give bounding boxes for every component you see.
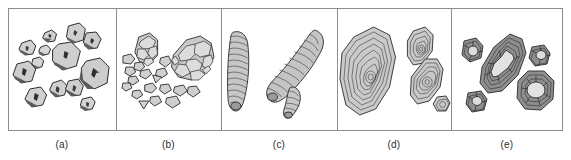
caption-e: (e) — [451, 133, 563, 160]
panel-e-drawing — [452, 9, 562, 130]
panel-a — [9, 9, 117, 130]
caption-d: (d) — [337, 133, 451, 160]
panel-b — [117, 9, 222, 130]
caption-b: (b) — [116, 133, 221, 160]
panel-c — [222, 9, 338, 130]
caption-c: (c) — [221, 133, 337, 160]
panel-b-drawing — [117, 9, 221, 130]
caption-row: (a) (b) (c) (d) (e) — [8, 133, 563, 160]
panel-d — [338, 9, 452, 130]
panel-e — [452, 9, 562, 130]
panel-d-drawing — [338, 9, 451, 130]
panel-c-drawing — [222, 9, 337, 130]
figure-plate: (a) (b) (c) (d) (e) — [0, 0, 571, 160]
caption-a: (a) — [8, 133, 116, 160]
panel-frame — [8, 8, 563, 131]
panel-a-drawing — [9, 9, 116, 130]
